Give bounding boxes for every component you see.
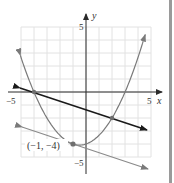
right-border [169, 0, 172, 183]
tangent-point-label: (−1, −4) [27, 140, 60, 152]
y-axis-label: y [91, 10, 97, 21]
x-axis-min-tick: −5 [6, 96, 16, 106]
x-axis-label: x [156, 95, 162, 106]
tangent-point [70, 141, 75, 146]
intersection-point-right [110, 116, 114, 120]
parabola-curve [20, 35, 145, 146]
x-axis-max-tick: 5 [147, 96, 152, 106]
y-axis-min-tick: −5 [74, 158, 84, 168]
y-axis-max-tick: 5 [79, 22, 84, 32]
secant-line [20, 88, 147, 130]
graph: −5 5 x 5 −5 y (−1, −4) [0, 0, 174, 183]
intersection-point-left [32, 90, 36, 94]
